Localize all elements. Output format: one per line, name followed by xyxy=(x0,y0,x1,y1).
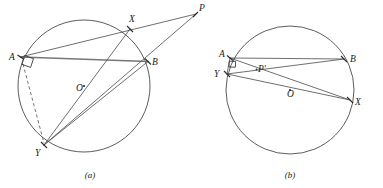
panel-a-label-y: Y xyxy=(35,148,42,158)
panel-b-label-x: X xyxy=(354,97,362,107)
geometry-figure-svg: A B X Y O P (a) xyxy=(0,0,383,188)
geometry-figure-root: A B X Y O P (a) xyxy=(0,0,383,188)
panel-a-point-x-tick xyxy=(127,26,133,32)
panel-b-point-x-tick xyxy=(347,97,353,103)
panel-a-label-p: P xyxy=(198,3,205,13)
panel-a-dashed-a-y xyxy=(23,64,44,143)
panel-a-chord-ab xyxy=(21,57,149,62)
panel-b-label-a: A xyxy=(218,49,225,59)
panel-a-chord-x-y xyxy=(44,29,130,145)
panel-b-label-pprime: P' xyxy=(257,64,267,74)
panel-b-label-b: B xyxy=(350,54,356,64)
panel-b-label-o: O xyxy=(287,89,294,99)
panel-a-caption: (a) xyxy=(85,170,96,180)
panel-b-caption: (b) xyxy=(285,170,296,180)
panel-a-line-y-to-p xyxy=(44,14,196,145)
panel-a-label-b: B xyxy=(152,57,158,67)
panel-a-label-x: X xyxy=(128,14,136,24)
panel-a-chord-b-y xyxy=(44,62,148,146)
panel-b-group: A B Y X O P' (b) xyxy=(214,26,362,180)
panel-a-label-o: O xyxy=(76,83,83,93)
panel-a-line-a-to-p xyxy=(21,14,197,57)
panel-b-chord-y-b xyxy=(227,59,344,74)
panel-a-group: A B X Y O P (a) xyxy=(8,3,205,180)
panel-a-label-a: A xyxy=(8,52,15,62)
panel-a-center-dot xyxy=(83,85,85,87)
panel-b-label-y: Y xyxy=(214,69,221,79)
panel-b-chord-ab xyxy=(230,58,344,59)
